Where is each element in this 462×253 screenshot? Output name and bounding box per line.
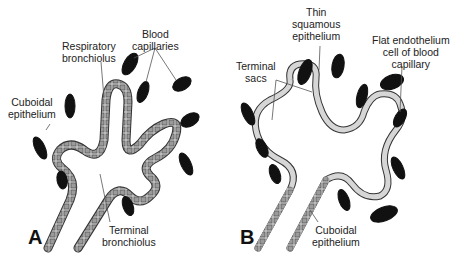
label-line: Terminal bbox=[102, 224, 156, 236]
label-line: bronchiolus bbox=[102, 236, 156, 248]
label-terminal-sacs: Terminal sacs bbox=[236, 60, 276, 84]
label-line: Respiratory bbox=[62, 40, 116, 52]
label-line: sacs bbox=[236, 72, 276, 84]
label-line: squamous bbox=[292, 18, 340, 30]
label-line: capillaries bbox=[132, 40, 179, 52]
label-line: Cuboidal bbox=[8, 96, 56, 108]
label-line: epithelium bbox=[312, 236, 360, 248]
label-line: Terminal bbox=[236, 60, 276, 72]
label-terminal-bronchiolus: Terminal bronchiolus bbox=[102, 224, 156, 248]
label-line: Cuboidal bbox=[312, 224, 360, 236]
label-line: Flat endothelium bbox=[372, 34, 450, 46]
label-blood-capillaries: Blood capillaries bbox=[132, 28, 179, 52]
label-line: Blood bbox=[132, 28, 179, 40]
panel-letter-a: A bbox=[28, 226, 42, 249]
panel-letter-b: B bbox=[240, 226, 254, 249]
label-line: bronchiolus bbox=[62, 52, 116, 64]
label-respiratory-bronchiolus: Respiratory bronchiolus bbox=[62, 40, 116, 64]
label-flat-endothelium: Flat endothelium cell of blood capillary bbox=[372, 34, 450, 70]
label-line: Thin bbox=[292, 6, 340, 18]
label-line: capillary bbox=[372, 58, 450, 70]
label-line: epithelium bbox=[292, 30, 340, 42]
label-thin-squamous-epithelium: Thin squamous epithelium bbox=[292, 6, 340, 42]
label-line: cell of blood bbox=[372, 46, 450, 58]
label-cuboidal-epithelium-a: Cuboidal epithelium bbox=[8, 96, 56, 120]
label-line: epithelium bbox=[8, 108, 56, 120]
label-cuboidal-epithelium-b: Cuboidal epithelium bbox=[312, 224, 360, 248]
